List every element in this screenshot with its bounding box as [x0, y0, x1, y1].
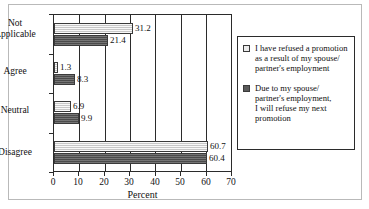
bar-value-not-applicable-series1: 31.2	[133, 23, 151, 34]
bar-value-neutral-series1: 6.9	[71, 101, 84, 112]
x-axis-tick-60	[206, 172, 207, 176]
x-axis-tick-40	[155, 172, 156, 176]
bar-value-disagree-series2: 60.4	[207, 153, 225, 164]
bar-not-applicable-series2[interactable]	[54, 35, 108, 46]
bar-group-agree: 1.3 8.3	[54, 59, 231, 93]
category-label-neutral: Neutral	[0, 105, 47, 116]
x-axis-label-70: 70	[219, 177, 243, 188]
x-axis-tick-50	[180, 172, 181, 176]
bar-value-agree-series1: 1.3	[58, 62, 71, 73]
bar-chart-figure: NotApplicable Agree Neutral Disagree 31.…	[0, 0, 369, 209]
bar-value-disagree-series1: 60.7	[208, 141, 226, 152]
bar-value-agree-series2: 8.3	[75, 74, 88, 85]
legend-swatch-dark-icon	[243, 85, 250, 92]
x-axis-tick-20	[104, 172, 105, 176]
bar-disagree-series1[interactable]	[54, 141, 208, 152]
x-axis-label-40: 40	[143, 177, 167, 188]
bar-group-disagree: 60.7 60.4	[54, 138, 231, 172]
plot-area: 31.2 21.4 1.3 8.3 6.9 9.9 60.7 60.4	[53, 14, 232, 172]
bar-not-applicable-series1[interactable]	[54, 23, 133, 34]
bar-agree-series2[interactable]	[54, 74, 75, 85]
x-axis-title: Percent	[53, 189, 232, 200]
legend-label-series2: Due to my spouse/ partner's employment, …	[255, 83, 350, 124]
x-axis-label-60: 60	[194, 177, 218, 188]
legend-swatch-light-icon	[243, 45, 250, 52]
bar-group-neutral: 6.9 9.9	[54, 98, 231, 132]
category-label-agree: Agree	[0, 66, 47, 77]
x-axis-label-50: 50	[168, 177, 192, 188]
x-axis-label-20: 20	[92, 177, 116, 188]
x-axis-tick-0	[53, 172, 54, 176]
x-axis-tick-30	[129, 172, 130, 176]
legend-entry-series2[interactable]: Due to my spouse/ partner's employment, …	[243, 83, 350, 124]
bar-disagree-series2[interactable]	[54, 153, 207, 164]
category-label-not-applicable: NotApplicable	[0, 18, 47, 39]
bar-value-not-applicable-series2: 21.4	[108, 35, 126, 46]
category-label-disagree: Disagree	[0, 147, 47, 158]
x-axis-label-10: 10	[66, 177, 90, 188]
bar-value-neutral-series2: 9.9	[79, 113, 92, 124]
x-axis-label-30: 30	[117, 177, 141, 188]
x-axis-tick-10	[78, 172, 79, 176]
legend-label-series1: I have refused a promotion as a result o…	[255, 43, 350, 74]
legend-entry-series1[interactable]: I have refused a promotion as a result o…	[243, 43, 350, 74]
x-axis-tick-70	[231, 172, 232, 176]
legend-box: I have refused a promotion as a result o…	[237, 36, 355, 150]
bar-neutral-series1[interactable]	[54, 101, 71, 112]
bar-neutral-series2[interactable]	[54, 113, 79, 124]
x-axis-label-0: 0	[41, 177, 65, 188]
bar-group-not-applicable: 31.2 21.4	[54, 20, 231, 54]
